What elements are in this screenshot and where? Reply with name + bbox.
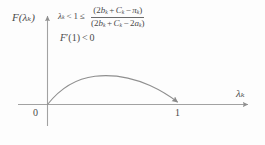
annotation-relation-1: <	[66, 12, 71, 22]
x-tick-label-0: 0	[33, 108, 38, 118]
fraction-numerator: (2bk+Ck−πk)	[91, 6, 144, 18]
num-term2-subscript: k	[122, 9, 124, 15]
y-axis-label: F(λₖ)	[12, 12, 35, 23]
annotation-fraction: (2bk+Ck−πk) (2bk+Ck−2ak)	[89, 6, 147, 29]
x-axis-label: λₖ	[236, 88, 245, 99]
annotation-inequality: λk < 1 ≤ (2bk+Ck−πk) (2bk+Ck−2ak)	[58, 6, 147, 29]
derivative-relation: <	[82, 32, 88, 43]
den-term1-subscript: k	[103, 22, 105, 28]
derivative-value: 0	[90, 32, 95, 43]
den-operator-2: −	[123, 18, 128, 28]
annotation-block: λk < 1 ≤ (2bk+Ck−πk) (2bk+Ck−2ak) F′(1) …	[58, 6, 147, 43]
annotation-relation-2: ≤	[80, 12, 85, 22]
function-curve	[48, 76, 178, 105]
num-term1-subscript: k	[105, 9, 107, 15]
x-tick-label-1: 1	[175, 108, 180, 118]
num-close-paren: )	[139, 5, 142, 15]
derivative-argument: (1)	[68, 32, 80, 43]
annotation-derivative-condition: F′(1) < 0	[60, 32, 147, 43]
num-operator-2: −	[126, 5, 131, 15]
fraction-denominator: (2bk+Ck−2ak)	[89, 18, 147, 29]
figure-canvas: F(λₖ) λₖ 0 1 λk < 1 ≤ (2bk+Ck−πk) (2bk+C…	[0, 0, 265, 145]
den-term2-subscript: k	[120, 22, 122, 28]
annotation-lhs-subscript: k	[62, 14, 64, 20]
num-operator-1: +	[109, 5, 114, 15]
den-operator-1: +	[107, 18, 112, 28]
den-close-paren: )	[142, 18, 145, 28]
annotation-middle-value: 1	[73, 12, 78, 22]
